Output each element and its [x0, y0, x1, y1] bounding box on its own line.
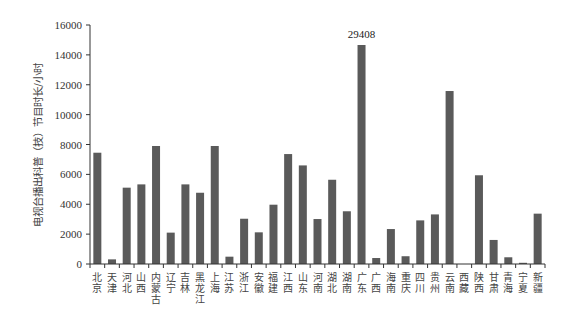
- x-tick-label: 广: [357, 272, 367, 283]
- bar-6: [181, 184, 189, 264]
- bar-14: [299, 165, 307, 264]
- x-tick-label: 北: [122, 283, 132, 294]
- x-tick-label: 林: [180, 282, 190, 294]
- x-tick-label: 广: [371, 272, 381, 283]
- x-tick-label: 黑: [195, 272, 205, 283]
- bar-28: [504, 257, 512, 264]
- bar-0: [93, 153, 101, 264]
- x-tick-label: 云: [445, 272, 455, 283]
- x-tick-label: 南: [386, 282, 396, 294]
- x-tick-label: 浙: [239, 272, 249, 283]
- x-tick-label: 徽: [254, 282, 264, 294]
- y-tick-label: 12000: [55, 79, 83, 91]
- x-tick-label: 江: [283, 272, 293, 283]
- y-axis-label: 电视台播出科普（技）节目时长/小时: [32, 62, 44, 227]
- x-tick-label: 河: [313, 272, 323, 283]
- x-tick-label: 辽: [166, 272, 176, 283]
- x-tick-label: 西: [459, 272, 469, 283]
- y-tick-label: 6000: [60, 168, 83, 180]
- x-tick-label: 甘: [489, 271, 499, 283]
- x-tick-label: 北: [92, 272, 102, 283]
- bar-9: [225, 257, 233, 264]
- x-tick-label: 南: [445, 282, 455, 294]
- y-tick-label: 14000: [55, 49, 83, 61]
- x-tick-label: 海: [503, 282, 513, 294]
- x-tick-label: 蒙: [151, 282, 161, 294]
- bar-10: [240, 219, 248, 264]
- x-tick-label: 夏: [518, 283, 528, 294]
- bar-16: [328, 180, 336, 264]
- x-tick-label: 龙: [195, 282, 205, 294]
- x-tick-label: 肃: [489, 283, 499, 294]
- x-tick-label: 福: [268, 271, 278, 283]
- bar-17: [343, 211, 351, 264]
- x-tick-label: 贵: [430, 271, 440, 283]
- bar-5: [167, 233, 175, 264]
- x-tick-label: 安: [254, 271, 264, 283]
- x-tick-label: 南: [342, 282, 352, 294]
- y-tick-label: 2000: [60, 228, 83, 240]
- bar-7: [196, 193, 204, 264]
- x-tick-label: 重: [401, 271, 411, 283]
- bar-12: [269, 205, 277, 264]
- y-tick-label: 4000: [60, 198, 83, 210]
- x-tick-label: 江: [224, 272, 234, 283]
- x-tick-label: 京: [92, 282, 102, 294]
- x-tick-label: 津: [107, 283, 117, 294]
- y-axis: 0200040006000800010000120001400016000: [55, 19, 91, 270]
- bar-20: [387, 229, 395, 264]
- x-tick-label: 海: [210, 282, 220, 294]
- x-tick-label: 北: [327, 283, 337, 294]
- x-tick-label: 疆: [533, 283, 543, 294]
- x-tick-label: 江: [239, 283, 249, 294]
- x-tick-label: 吉: [180, 272, 190, 283]
- x-axis: 北京天津河北山西内蒙古辽宁吉林黑龙江上海江苏浙江安徽福建江西山东河南湖北湖南广东…: [90, 264, 545, 305]
- x-tick-label: 西: [474, 283, 484, 294]
- x-tick-label: 庆: [401, 282, 411, 294]
- bar-19: [372, 258, 380, 264]
- bar-30: [534, 214, 542, 264]
- y-axis-title: 电视台播出科普（技）节目时长/小时: [32, 62, 44, 227]
- x-tick-label: 上: [210, 272, 220, 283]
- bars: [93, 45, 541, 264]
- bar-3: [137, 184, 145, 264]
- y-tick-label: 8000: [60, 139, 83, 151]
- x-tick-label: 东: [357, 282, 367, 294]
- bar-23: [431, 214, 439, 264]
- bar-21: [402, 256, 410, 264]
- x-tick-label: 南: [313, 282, 323, 294]
- x-tick-label: 天: [107, 272, 117, 283]
- bar-chart: 电视台播出科普（技）节目时长/小时 0200040006000800010000…: [0, 0, 573, 328]
- x-tick-label: 山: [298, 272, 308, 283]
- bar-1: [108, 259, 116, 264]
- annotations: 29408: [348, 28, 376, 40]
- x-tick-label: 山: [136, 272, 146, 283]
- x-tick-label: 江: [195, 294, 205, 305]
- bar-value-annotation: 29408: [348, 28, 376, 40]
- x-tick-label: 陕: [474, 271, 484, 283]
- x-tick-label: 湖: [327, 272, 337, 283]
- bar-11: [255, 232, 263, 264]
- x-tick-label: 新: [533, 271, 543, 283]
- x-tick-label: 湖: [342, 272, 352, 283]
- bar-24: [446, 91, 454, 264]
- x-tick-label: 州: [430, 283, 440, 294]
- x-tick-label: 藏: [459, 283, 469, 294]
- bar-13: [284, 154, 292, 264]
- bar-15: [314, 219, 322, 264]
- x-tick-label: 东: [298, 282, 308, 294]
- bar-2: [123, 188, 131, 264]
- x-tick-label: 海: [386, 271, 396, 283]
- x-tick-label: 宁: [518, 271, 528, 283]
- bar-4: [152, 146, 160, 264]
- x-tick-label: 古: [151, 293, 161, 305]
- x-tick-label: 内: [151, 271, 161, 283]
- y-tick-label: 0: [77, 258, 83, 270]
- x-tick-label: 西: [136, 283, 146, 294]
- bar-8: [211, 146, 219, 264]
- bar-27: [490, 240, 498, 264]
- bar-26: [475, 175, 483, 264]
- x-tick-label: 西: [371, 283, 381, 294]
- x-tick-label: 宁: [166, 282, 176, 294]
- x-tick-label: 西: [283, 283, 293, 294]
